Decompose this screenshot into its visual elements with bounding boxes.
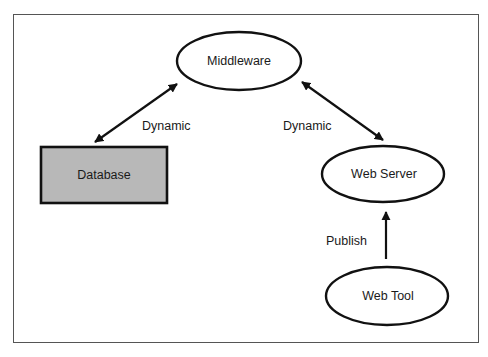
node-label-database: Database [77, 168, 131, 182]
node-web-server: Web Server [322, 146, 444, 202]
edge-label-publish: Publish [326, 234, 367, 248]
node-label-web-server: Web Server [351, 167, 417, 181]
node-middleware: Middleware [177, 32, 301, 90]
node-label-middleware: Middleware [207, 54, 271, 68]
edge-database-middleware-arrow [95, 84, 177, 142]
edge-label-dynamic-left: Dynamic [142, 119, 191, 133]
node-database: Database [41, 147, 167, 203]
node-web-tool: Web Tool [326, 267, 448, 325]
edge-label-dynamic-right: Dynamic [283, 119, 332, 133]
architecture-diagram: Dynamic Dynamic Publish Middleware Datab… [0, 0, 488, 357]
node-label-web-tool: Web Tool [362, 289, 414, 303]
